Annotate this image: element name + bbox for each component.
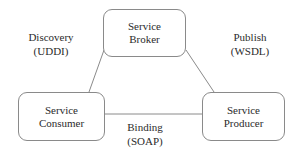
node-service-producer[interactable]: Service Producer — [202, 92, 285, 141]
node-service-broker-line1: Service — [128, 20, 161, 33]
soa-triangle-diagram: Service Broker Service Consumer Service … — [0, 0, 302, 159]
edge-label-discovery-line2: (UDDI) — [14, 44, 88, 58]
edge-label-discovery-line1: Discovery — [14, 30, 88, 44]
edge-label-discovery: Discovery (UDDI) — [14, 30, 88, 58]
node-service-consumer[interactable]: Service Consumer — [18, 92, 105, 141]
connector-broker-producer — [186, 50, 214, 92]
node-service-broker[interactable]: Service Broker — [103, 9, 186, 57]
edge-label-binding: Binding (SOAP) — [110, 120, 180, 148]
node-service-consumer-line2: Consumer — [39, 117, 84, 130]
edge-label-publish-line1: Publish — [212, 30, 288, 44]
connector-consumer-broker — [89, 50, 104, 92]
node-service-broker-line2: Broker — [129, 33, 160, 46]
node-service-producer-line1: Service — [227, 104, 260, 117]
edge-label-publish-line2: (WSDL) — [212, 44, 288, 58]
edge-label-binding-line2: (SOAP) — [110, 134, 180, 148]
node-service-producer-line2: Producer — [224, 117, 264, 130]
edge-label-binding-line1: Binding — [110, 120, 180, 134]
node-service-consumer-line1: Service — [45, 104, 78, 117]
edge-label-publish: Publish (WSDL) — [212, 30, 288, 58]
